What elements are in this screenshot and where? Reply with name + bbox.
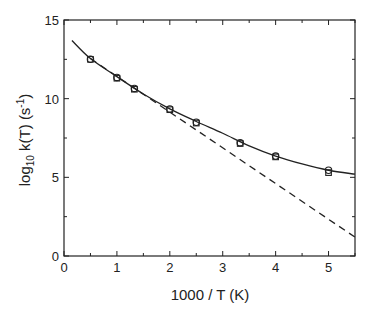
x-tick-label: 0 — [60, 260, 67, 275]
fit-solid-line — [72, 40, 355, 174]
axis-ticks — [64, 20, 355, 256]
x-tick-label: 2 — [166, 260, 173, 275]
y-tick-label: 15 — [45, 13, 59, 28]
y-tick-label: 0 — [52, 249, 59, 264]
data-series — [72, 40, 355, 237]
x-tick-label: 4 — [272, 260, 279, 275]
x-axis-label: 1000 / T (K) — [171, 286, 250, 303]
x-tick-label: 3 — [219, 260, 226, 275]
chart: 012345051015 1000 / T (K) log10 k(T) (s-… — [0, 0, 370, 314]
x-tick-label: 1 — [113, 260, 120, 275]
y-axis-label: log10 k(T) (s-1) — [15, 94, 36, 187]
y-tick-label: 5 — [52, 170, 59, 185]
tick-labels: 012345051015 — [45, 13, 333, 275]
plot-frame — [64, 20, 355, 256]
y-tick-label: 10 — [45, 92, 59, 107]
x-tick-label: 5 — [325, 260, 332, 275]
